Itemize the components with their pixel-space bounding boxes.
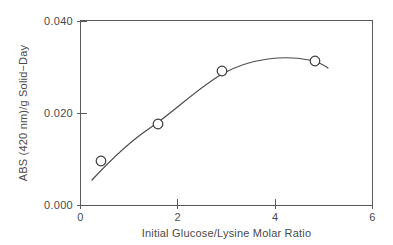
chart-figure: 0.040 0.020 0.000 0 2 4 6 Initial Glucos… <box>0 0 393 245</box>
x-tick-label-2: 4 <box>272 211 278 223</box>
x-tick-label-0: 0 <box>77 211 83 223</box>
plot-canvas: 0.040 0.020 0.000 0 2 4 6 Initial Glucos… <box>0 0 393 245</box>
data-point-marker <box>217 66 227 76</box>
data-point-marker <box>310 56 320 66</box>
x-axis-title: Initial Glucose/Lysine Molar Ratio <box>142 227 312 239</box>
data-point-marker <box>153 119 163 129</box>
x-tick-label-3: 6 <box>369 211 375 223</box>
data-point-marker <box>96 156 106 166</box>
y-axis-title: ABS (420 nm)/g Solid−Day <box>17 44 29 181</box>
y-tick-label-2: 0.000 <box>44 199 73 211</box>
y-tick-label-1: 0.020 <box>44 107 73 119</box>
x-tick-label-1: 2 <box>175 211 181 223</box>
plot-frame <box>81 21 373 206</box>
y-tick-label-0: 0.040 <box>44 15 73 27</box>
data-curve <box>92 58 328 180</box>
